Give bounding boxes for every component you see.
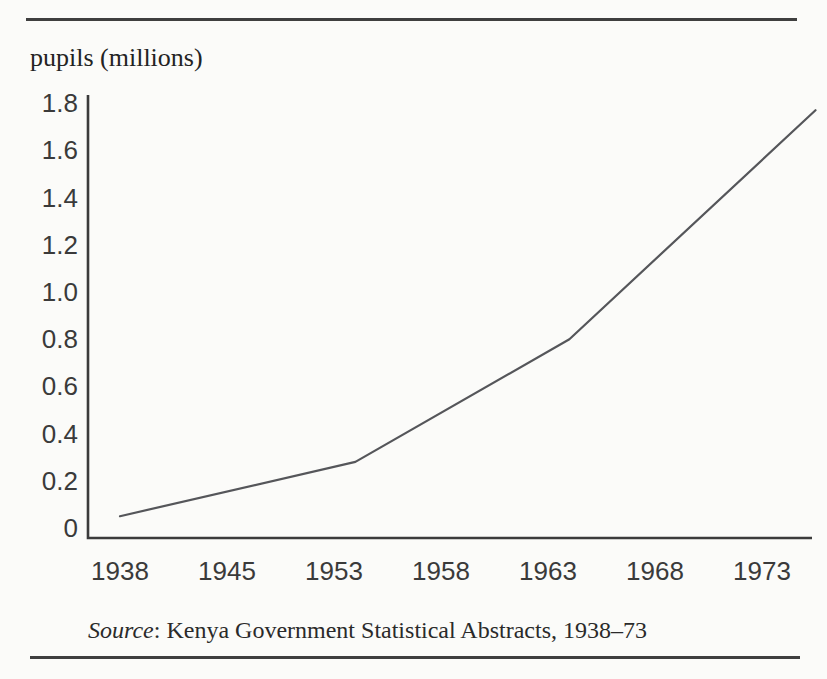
line-chart-canvas: 1.81.61.41.21.00.80.60.40.20 19381945195… [0, 0, 827, 679]
y-tick-label: 0.8 [42, 324, 78, 354]
y-tick-label: 0.4 [42, 419, 78, 449]
source-label: Source [88, 617, 154, 643]
y-tick-label: 1.2 [42, 230, 78, 260]
x-axis-tick-labels: 1938194519531958196319681973 [91, 556, 791, 586]
y-tick-label: 1.0 [42, 277, 78, 307]
scanned-book-figure: pupils (millions) 1.81.61.41.21.00.80.60… [0, 0, 827, 679]
axes [88, 95, 812, 538]
y-tick-label: 0.6 [42, 371, 78, 401]
source-text: : Kenya Government Statistical Abstracts… [154, 617, 647, 643]
y-tick-label: 1.4 [42, 183, 78, 213]
x-tick-label: 1958 [412, 556, 470, 586]
x-tick-label: 1968 [626, 556, 684, 586]
bottom-rule [30, 656, 800, 659]
y-tick-label: 0.2 [42, 466, 78, 496]
y-tick-label: 0 [64, 513, 78, 543]
source-note: Source: Kenya Government Statistical Abs… [88, 617, 647, 644]
enrollment-line [120, 110, 816, 516]
y-axis-tick-labels: 1.81.61.41.21.00.80.60.40.20 [42, 88, 78, 543]
y-tick-label: 1.6 [42, 135, 78, 165]
x-tick-label: 1953 [305, 556, 363, 586]
y-tick-label: 1.8 [42, 88, 78, 118]
x-tick-label: 1973 [733, 556, 791, 586]
x-tick-label: 1938 [91, 556, 149, 586]
x-tick-label: 1963 [519, 556, 577, 586]
x-tick-label: 1945 [198, 556, 256, 586]
